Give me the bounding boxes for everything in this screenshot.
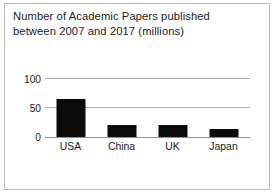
bar-slot-japan xyxy=(198,78,249,137)
bar-slot-uk xyxy=(147,78,198,137)
axis-baseline-0 xyxy=(45,137,250,138)
bar-slot-china xyxy=(96,78,147,137)
x-axis-label-uk: UK xyxy=(147,141,198,152)
x-axis-label-japan: Japan xyxy=(198,141,249,152)
y-axis-tick-label: 0 xyxy=(9,132,41,143)
bar-usa xyxy=(56,99,85,137)
x-axis-label-usa: USA xyxy=(45,141,96,152)
y-axis: 100 50 0 xyxy=(7,78,41,138)
bar-uk xyxy=(158,125,187,137)
bar-japan xyxy=(209,129,238,137)
y-axis-tick-label: 100 xyxy=(9,74,41,85)
chart-title: Number of Academic Papers published betw… xyxy=(13,9,261,38)
bar-china xyxy=(107,125,136,137)
bar-slot-usa xyxy=(45,78,96,137)
y-axis-tick-label: 50 xyxy=(9,103,41,114)
chart-figure: Number of Academic Papers published betw… xyxy=(0,0,275,195)
bar-group xyxy=(45,78,250,137)
x-axis-label-china: China xyxy=(96,141,147,152)
